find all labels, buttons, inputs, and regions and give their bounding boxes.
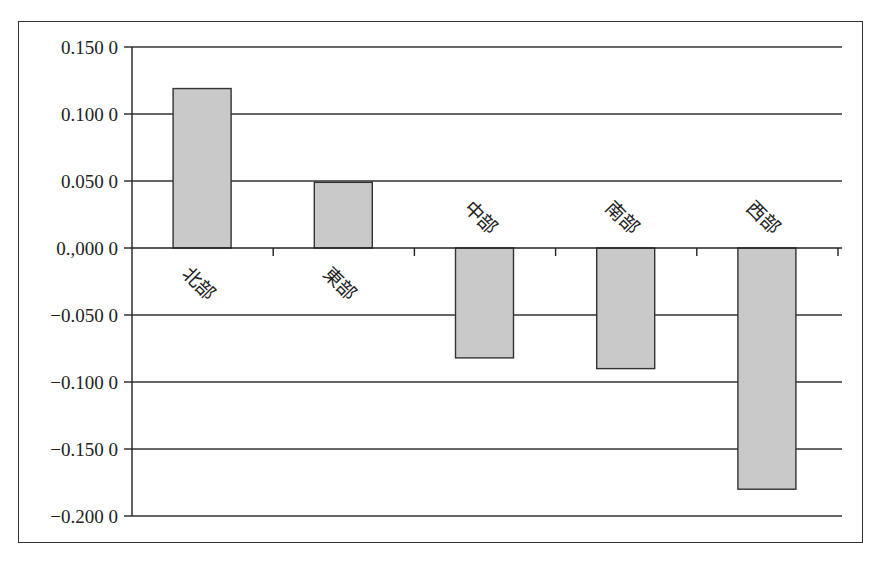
y-tick-label: 0.150 0 bbox=[61, 37, 118, 58]
y-tick-label: −0.200 0 bbox=[50, 506, 118, 527]
y-tick-label: 0.100 0 bbox=[61, 104, 118, 125]
y-tick-label: −0.100 0 bbox=[50, 372, 118, 393]
y-tick-label: −0.150 0 bbox=[50, 439, 118, 460]
y-tick-label: 0.,000 0 bbox=[56, 238, 118, 259]
bars bbox=[173, 89, 796, 490]
y-tick-label: −0.050 0 bbox=[50, 305, 118, 326]
y-tick-label: 0.050 0 bbox=[61, 171, 118, 192]
category-label: 南部 bbox=[601, 196, 643, 238]
bar-5 bbox=[738, 248, 796, 489]
category-label: 中部 bbox=[460, 196, 502, 238]
category-label: 西部 bbox=[743, 196, 785, 238]
category-label: 北部 bbox=[178, 262, 220, 304]
bar-2 bbox=[314, 182, 372, 248]
bar-4 bbox=[597, 248, 655, 369]
bar-1 bbox=[173, 89, 231, 248]
y-axis-tick-labels: 0.150 00.100 00.050 00.,000 0−0.050 0−0.… bbox=[50, 37, 118, 527]
bar-3 bbox=[456, 248, 514, 358]
bar-chart: 0.150 00.100 00.050 00.,000 0−0.050 0−0.… bbox=[0, 0, 880, 569]
category-label: 東部 bbox=[319, 262, 361, 304]
